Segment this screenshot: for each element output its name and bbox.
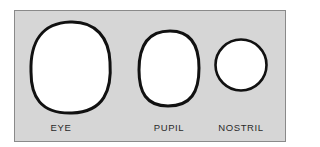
eye-shape bbox=[31, 22, 110, 113]
nostril-label: NOSTRIL bbox=[201, 122, 281, 133]
pupil-shape bbox=[139, 31, 199, 106]
eye-label: EYE bbox=[21, 122, 101, 133]
pupil-label: PUPIL bbox=[129, 122, 209, 133]
nostril-shape bbox=[216, 40, 267, 91]
